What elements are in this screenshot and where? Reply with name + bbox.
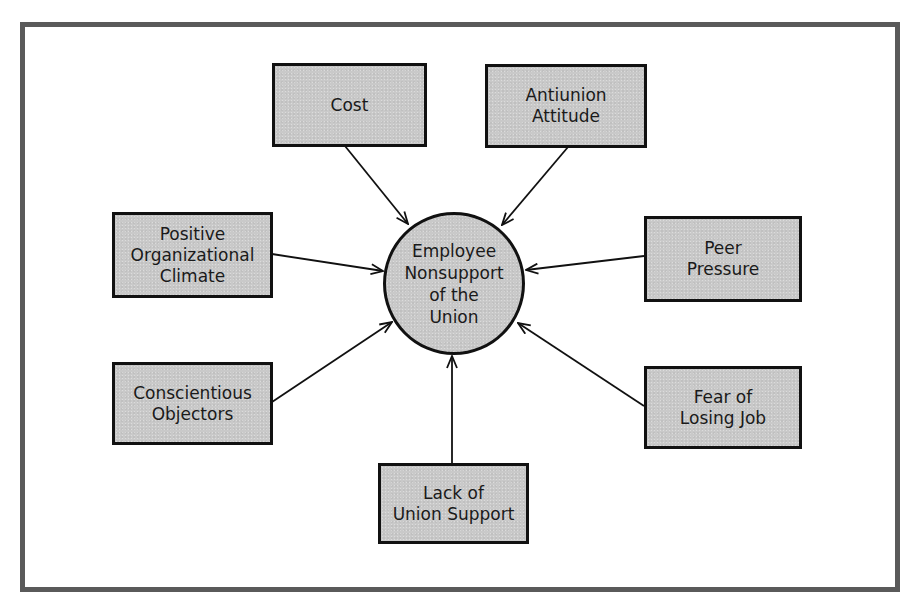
factor-node-fear-of-losing-job: Fear of Losing Job	[644, 366, 802, 449]
factor-node-lack-of-union-support: Lack of Union Support	[378, 463, 529, 544]
factor-label-cost: Cost	[331, 95, 369, 116]
factor-node-antiunion-attitude: Antiunion Attitude	[485, 64, 647, 148]
factor-node-peer-pressure: Peer Pressure	[644, 216, 802, 302]
factor-node-conscientious-objectors: Conscientious Objectors	[112, 362, 273, 445]
factor-label-positive-organizational-climate: Positive Organizational Climate	[131, 224, 255, 287]
center-node-employee-nonsupport: Employee Nonsupport of the Union	[383, 212, 525, 355]
factor-label-fear-of-losing-job: Fear of Losing Job	[680, 387, 766, 429]
factor-node-positive-organizational-climate: Positive Organizational Climate	[112, 212, 273, 298]
factor-node-cost: Cost	[272, 63, 427, 147]
factor-label-lack-of-union-support: Lack of Union Support	[393, 483, 515, 525]
center-node-label: Employee Nonsupport of the Union	[404, 240, 503, 328]
factor-label-conscientious-objectors: Conscientious Objectors	[133, 383, 252, 425]
factor-label-antiunion-attitude: Antiunion Attitude	[525, 85, 606, 127]
factor-label-peer-pressure: Peer Pressure	[687, 238, 760, 280]
